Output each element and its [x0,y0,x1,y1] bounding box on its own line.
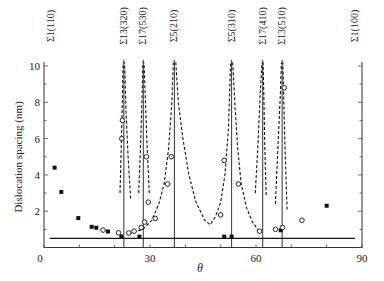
data-points [53,85,329,238]
y-tick-label: 4 [35,169,41,181]
data-point-open-circle [169,154,174,159]
data-point-filled-square [76,216,80,220]
dashed-curve-s17-410-right [263,62,266,195]
data-point-open-circle [236,182,241,187]
x-tick-label: 30 [145,252,157,264]
dashed-curve-s5-210-left [129,62,174,234]
data-point-open-circle [222,158,227,163]
plot-area: 2468100306090 Σ1(110)Σ13(320)Σ17(530)Σ5(… [12,7,368,275]
x-axis-label: θ [197,261,203,275]
data-point-open-circle [142,220,147,225]
x-tick-label: 60 [251,252,263,264]
data-point-filled-square [90,225,94,229]
csl-boundary-label: Σ5(310) [226,10,238,42]
csl-boundary-label: Σ1(100) [349,10,361,42]
data-point-filled-square [94,226,98,230]
data-point-open-circle [116,230,121,235]
data-point-open-circle [146,200,151,205]
dashed-curve-s5-310-right [233,62,262,232]
csl-boundary-label: Σ5(210) [168,10,180,42]
dashed-curve-s17-530-left [139,62,143,193]
dashed-curve-s13-320-left [120,62,123,193]
data-point-open-circle [300,218,305,223]
dashed-curve-s13-320-right [125,62,131,198]
data-point-filled-square [325,204,329,208]
dashed-curve-s13-510-left [275,62,281,204]
data-point-open-circle [273,227,278,232]
csl-boundary-label: Σ17(530) [137,7,149,44]
x-tick-label: 90 [357,252,369,264]
data-point-open-circle [101,228,106,233]
dashed-curve-s17-530-right [144,62,149,193]
x-tick-label: 0 [37,252,43,264]
y-axis-label: Dislocation spacing (nm) [12,101,25,213]
y-tick-label: 6 [35,133,41,145]
data-point-open-circle [218,213,223,218]
axis-tick-labels: 2468100306090 [29,60,368,264]
dislocation-spacing-chart: 2468100306090 Σ1(110)Σ13(320)Σ17(530)Σ5(… [0,0,384,281]
csl-boundary-label: Σ1(110) [45,10,57,42]
dashed-curve-s17-410-left [255,62,262,193]
data-point-filled-square [59,190,63,194]
data-point-open-circle [257,229,262,234]
dashed-curve-s13-510-right [283,62,287,209]
data-point-open-circle [120,118,125,123]
data-point-open-circle [280,225,285,230]
data-point-open-circle [132,229,137,234]
data-point-open-circle [127,231,132,236]
csl-boundary-labels: Σ1(110)Σ13(320)Σ17(530)Σ5(210)Σ5(310)Σ17… [45,7,361,44]
data-point-filled-square [53,166,57,170]
data-point-open-circle [119,136,124,141]
csl-boundary-lines [124,60,282,248]
data-point-open-circle [153,216,158,221]
data-point-filled-square [137,235,141,239]
y-tick-label: 2 [35,205,41,217]
data-point-filled-square [222,235,226,239]
data-point-filled-square [106,230,110,234]
csl-boundary-label: Σ17(410) [257,7,269,44]
data-point-open-circle [282,85,287,90]
theory-curves [50,62,355,238]
dashed-curve-s5-v [176,62,231,224]
data-point-open-circle [144,154,149,159]
data-point-open-circle [165,182,170,187]
axis-ticks [44,66,362,248]
csl-boundary-label: Σ13(510) [276,7,288,44]
data-point-open-circle [139,225,144,230]
y-tick-label: 8 [35,96,41,108]
data-point-filled-square [230,235,234,239]
y-tick-label: 10 [29,60,41,72]
csl-boundary-label: Σ13(320) [118,7,130,44]
